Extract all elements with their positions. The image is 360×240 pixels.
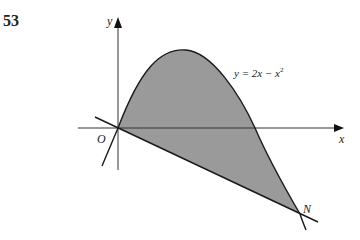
curve-equation-label: y = 2x − x2 bbox=[233, 66, 284, 79]
y-axis-label: y bbox=[106, 14, 113, 28]
point-N-label: N bbox=[302, 202, 312, 216]
diagram: y x O N y = 2x − x2 bbox=[0, 0, 360, 240]
y-axis-arrow-icon bbox=[114, 17, 122, 28]
x-axis-label: x bbox=[338, 132, 345, 146]
x-axis-arrow-icon bbox=[334, 124, 344, 132]
origin-label: O bbox=[97, 132, 106, 146]
